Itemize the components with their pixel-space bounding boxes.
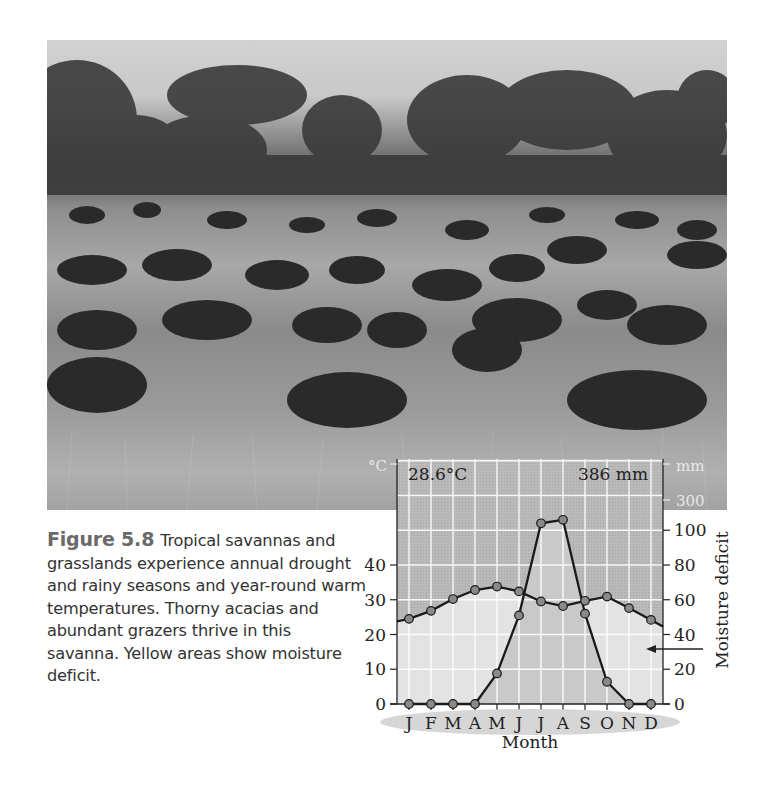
precipitation-point [427, 700, 436, 709]
annual-precip-label: 386 mm [578, 464, 648, 484]
climate-chart-svg: JFMAMJJASOND 010203040 020406080100 Mont… [330, 445, 763, 798]
left-tick-label: 40 [364, 555, 386, 575]
month-label: D [644, 713, 658, 733]
month-label: J [536, 713, 545, 733]
left-tick-label: 20 [364, 625, 386, 645]
right-tick-label: 0 [674, 694, 685, 714]
precipitation-point [537, 519, 546, 528]
precipitation-point [449, 700, 458, 709]
temperature-point [603, 592, 612, 601]
temperature-point [559, 602, 568, 611]
right-tick-label: 60 [674, 590, 696, 610]
precipitation-point [625, 700, 634, 709]
figure-caption: Figure 5.8Tropical savannas and grasslan… [47, 528, 367, 688]
month-label: N [622, 713, 637, 733]
temperature-point [515, 587, 524, 596]
right-tick-label: 40 [674, 625, 696, 645]
precipitation-point [559, 516, 568, 525]
precipitation-point [515, 611, 524, 620]
month-label: A [556, 713, 570, 733]
photo-illustration [47, 40, 727, 510]
precipitation-point [647, 700, 656, 709]
right-tick-label: 100 [674, 520, 706, 540]
precipitation-point [581, 609, 590, 618]
precipitation-point [493, 669, 502, 678]
precipitation-point [405, 700, 414, 709]
right-tick-labels: 020406080100 [674, 520, 706, 714]
month-label: M [444, 713, 461, 733]
month-label: S [579, 713, 591, 733]
moisture-deficit-axis-title: Moisture deficit [712, 531, 732, 668]
month-label: A [468, 713, 482, 733]
savanna-photo [47, 40, 727, 510]
right-tick-label: 80 [674, 555, 696, 575]
temperature-point [537, 597, 546, 606]
month-label: J [404, 713, 413, 733]
precipitation-point [471, 700, 480, 709]
celsius-unit-label: °C [368, 457, 387, 475]
month-label: J [514, 713, 523, 733]
month-label: M [488, 713, 505, 733]
mean-temperature-label: 28.6°C [408, 464, 467, 484]
temperature-point [427, 607, 436, 616]
temperature-point [647, 616, 656, 625]
precipitation-point [603, 677, 612, 686]
month-label: F [425, 713, 437, 733]
temperature-point [471, 586, 480, 595]
month-label: O [600, 713, 614, 733]
temperature-point [405, 615, 414, 624]
mm-300-label: 300 [676, 492, 705, 510]
temperature-point [581, 596, 590, 605]
temperature-point [449, 595, 458, 604]
right-tick-label: 20 [674, 659, 696, 679]
temperature-point [625, 604, 634, 613]
left-tick-label: 0 [375, 694, 386, 714]
mm-unit-label: mm [676, 457, 704, 475]
temperature-point [493, 582, 502, 591]
x-axis-title: Month [502, 732, 558, 752]
climate-chart: JFMAMJJASOND 010203040 020406080100 Mont… [330, 445, 763, 798]
left-tick-label: 30 [364, 590, 386, 610]
left-tick-label: 10 [364, 659, 386, 679]
figure-label: Figure 5.8 [47, 528, 154, 550]
caption-text: Tropical savannas and grasslands experie… [47, 531, 366, 685]
left-tick-labels: 010203040 [364, 555, 386, 714]
